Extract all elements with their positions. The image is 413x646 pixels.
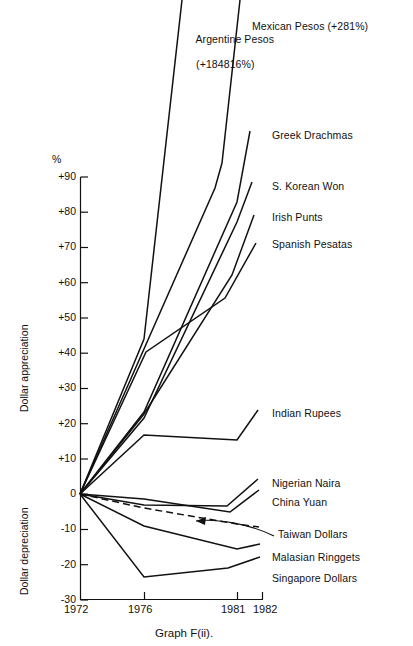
y-tick-label-80: +80	[26, 205, 76, 217]
y-tick-label-60: +60	[26, 276, 76, 288]
series-line-nigerian-naira	[80, 479, 258, 506]
series-label-nigerian-naira: Nigerian Naira	[272, 477, 341, 490]
y-tick-label-40: +40	[26, 346, 76, 358]
series-line-irish-punts	[80, 215, 254, 494]
y-tick-label-50: +50	[26, 311, 76, 323]
y-tick-label-20: +20	[26, 417, 76, 429]
y-tick-label-10: +10	[26, 452, 76, 464]
series-label-mexican-pesos: Mexican Pesos (+281%)	[252, 20, 368, 33]
y-axis-ticks	[81, 177, 89, 600]
series-label-argentine-pesos-line1: Argentine Pesos	[195, 33, 274, 45]
axes	[81, 177, 264, 600]
series-label-singapore-dollars: Singapore Dollars	[272, 572, 357, 585]
series-label-spanish-pesatas: Spanish Pesatas	[272, 238, 352, 251]
series-line-argentine-pesos	[80, 0, 182, 494]
taiwan-dollars-leader-arrow	[196, 520, 274, 536]
figure-caption: Graph F(ii).	[155, 627, 213, 639]
y-tick-label-0: 0	[26, 487, 76, 499]
series-line-mexican-pesos	[80, 0, 240, 494]
x-tick-label-1976: 1976	[128, 603, 152, 615]
x-tick-label-1981: 1981	[221, 603, 245, 615]
y-tick-label-70: +70	[26, 240, 76, 252]
series-label-taiwan-dollars: Taiwan Dollars	[278, 528, 348, 541]
x-axis-ticks	[145, 592, 263, 600]
x-tick-label-1972: 1972	[64, 603, 88, 615]
series-label-s-korean-won: S. Korean Won	[272, 180, 344, 193]
y-tick-label-90: +90	[26, 170, 76, 182]
series-line-indian-rupees	[80, 410, 258, 494]
y-axis-title-depreciation: Dollar depreciation	[18, 507, 30, 595]
series-label-argentine-pesos-line2: (+184816%)	[196, 58, 255, 70]
x-tick-label-1982: 1982	[253, 603, 277, 615]
y-axis-unit-symbol: %	[52, 153, 61, 165]
series-label-indian-rupees: Indian Rupees	[272, 407, 341, 420]
y-tick-label-neg10: -10	[26, 522, 76, 534]
series-label-irish-punts: Irish Punts	[272, 211, 323, 224]
series-label-malasian-ringgets: Malasian Ringgets	[272, 551, 360, 564]
series-line-singapore-dollars	[80, 494, 260, 577]
series-label-greek-drachmas: Greek Drachmas	[272, 129, 353, 142]
series-label-china-yuan: China Yuan	[272, 496, 327, 509]
y-tick-label-30: +30	[26, 381, 76, 393]
y-tick-label-neg20: -20	[26, 558, 76, 570]
y-axis-title-appreciation: Dollar appreciation	[18, 324, 30, 412]
chart-canvas	[0, 0, 413, 646]
